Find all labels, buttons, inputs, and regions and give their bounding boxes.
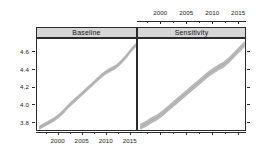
panel-strip-baseline: Baseline [36,27,137,38]
x-axis-top-tick-label-2015: 2015 [229,9,247,16]
x-axis-top-rule [137,21,246,22]
y-axis-tick-label-4.2: 4.2 [12,83,29,90]
y-axis-tick-label-4.6: 4.6 [12,48,29,55]
y-axis-right-tick-4.4 [247,69,250,70]
panel-sensitivity [137,38,246,131]
panel-baseline [36,38,137,131]
y-axis-tick-4.2 [32,87,35,88]
x-axis-top-tick-label-2010: 2010 [203,9,221,16]
x-axis-top-tick-label-2000: 2000 [151,9,169,16]
x-axis-bottom-tick-label-2010: 2010 [97,137,115,144]
y-axis-tick-label-4.4: 4.4 [12,66,29,73]
x-axis-bottom-tick-label-2005: 2005 [73,137,91,144]
y-axis-tick-4.4 [32,69,35,70]
y-axis-right-tick-4.6 [247,51,250,52]
y-axis-tick-label-4.0: 4.0 [12,101,29,108]
y-axis-tick-label-3.8: 3.8 [12,119,29,126]
x-axis-top-tick-label-2005: 2005 [177,9,195,16]
x-axis-bottom-tick-label-2000: 2000 [49,137,67,144]
x-axis-bottom-rule [36,132,246,133]
panel-strip-label-sensitivity: Sensitivity [175,29,209,37]
y-axis-right-tick-3.8 [247,122,250,123]
y-axis-tick-4.6 [32,51,35,52]
x-axis-bottom-tick-label-2015: 2015 [121,137,139,144]
y-axis-right-tick-4.2 [247,87,250,88]
confidence-band-sensitivity [138,39,246,131]
y-axis-tick-3.8 [32,122,35,123]
panel-strip-label-baseline: Baseline [72,29,100,37]
y-axis-tick-4.0 [32,104,35,105]
y-axis-right-tick-4.0 [247,104,250,105]
trellis-chart: 2000200520102015BaselineSensitivity20002… [0,0,273,155]
panel-strip-sensitivity: Sensitivity [137,27,246,38]
confidence-band-baseline [37,39,137,131]
